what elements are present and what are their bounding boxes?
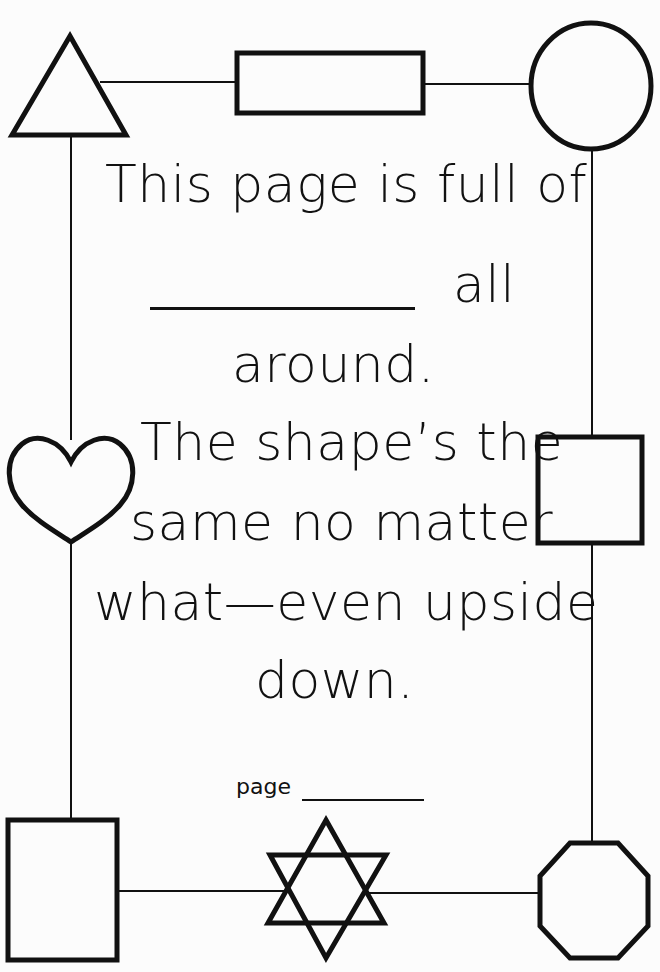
text-line-1: This page is full of [105,158,587,210]
worksheet-text: This page is full of all around. The sha… [0,0,660,972]
text-line-6: what—even upside [94,576,599,628]
text-line-2: all [453,258,515,310]
fill-in-blank[interactable] [150,307,415,310]
text-line-7: down. [255,654,414,706]
text-line-5: same no matter [130,496,553,548]
text-line-3: around. [232,338,435,390]
text-line-4: The shape’s the [140,416,563,468]
page-number-label: page [236,776,291,798]
page-number-blank[interactable] [302,799,424,801]
